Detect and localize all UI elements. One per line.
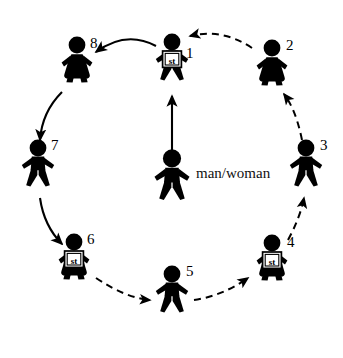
head-icon [264,40,281,57]
st-sign-text: st [169,56,176,66]
figure-4-woman: st [257,235,288,281]
foot-left [63,275,70,280]
figure-6-woman: st [59,234,90,280]
head-icon [164,34,181,51]
foot-left [261,276,268,281]
arrow-1-to-8 [96,39,156,52]
arrow-3-to-2 [284,94,302,140]
foot-right [77,275,84,280]
leg-left [294,169,305,186]
figure-2-woman [257,40,288,86]
torso [165,283,180,297]
arrow-7-to-6 [40,198,62,244]
figure-7-man [22,140,54,187]
figure-number-8: 8 [90,36,98,51]
leg-left [159,181,171,200]
head-icon [163,149,181,167]
figure-8-woman [62,37,93,83]
leg-left [160,295,171,312]
leg-right [39,169,50,186]
st-sign: st [65,251,84,267]
figure-number-5: 5 [186,264,194,279]
st-sign-text: st [71,256,78,266]
torso [299,157,314,171]
arrow-5-to-4 [194,278,248,300]
figure-number-6: 6 [87,232,95,247]
st-sign: st [163,51,182,67]
figure-center-man [155,149,190,200]
figure-layer: ststst [22,34,322,313]
circle-sequence-svg: ststst [0,0,343,358]
figure-3-man [290,140,322,187]
center-figure-label: man/woman [196,166,270,181]
arrow-2-to-1 [190,34,252,48]
figure-number-7: 7 [51,138,59,153]
arrow-8-to-7 [40,92,62,140]
figure-number-1: 1 [186,46,194,61]
figure-5-man [156,266,188,313]
leg-right [173,181,185,200]
leg-right [307,169,318,186]
figure-number-2: 2 [286,38,294,53]
torso [164,168,180,183]
st-sign: st [263,252,282,268]
foot-right [80,78,87,83]
head-icon [264,235,281,252]
head-icon [30,140,47,157]
figure-number-3: 3 [320,138,328,153]
leg-left [26,169,37,186]
head-icon [164,266,181,283]
figure-number-4: 4 [287,235,295,250]
torso [31,157,46,171]
arrow-6-to-5 [96,278,150,300]
foot-right [275,81,282,86]
head-icon [69,37,86,54]
head-icon [66,234,83,251]
figure-1-man: st [156,34,188,81]
st-sign-text: st [269,257,276,267]
diagram-canvas: ststst 12345678 man/woman [0,0,343,358]
foot-left [66,78,73,83]
head-icon [298,140,315,157]
foot-left [261,81,268,86]
foot-right [275,276,282,281]
leg-right [173,295,184,312]
